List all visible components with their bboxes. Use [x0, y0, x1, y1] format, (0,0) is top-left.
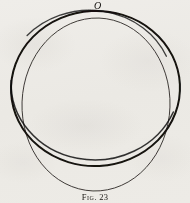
figure-caption: Fig.23: [0, 193, 190, 202]
outer-circle: [7, 6, 184, 170]
figure-caption-prefix: Fig.: [82, 192, 98, 202]
figure-caption-number: 23: [99, 192, 108, 202]
point-label-o: O: [94, 1, 101, 11]
geometry-diagram: [0, 0, 190, 203]
figure-container: O Fig.23: [0, 0, 190, 203]
